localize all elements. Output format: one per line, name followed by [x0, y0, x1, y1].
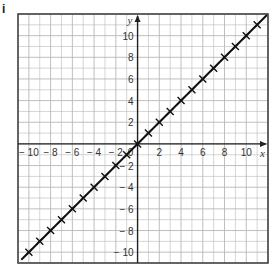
- x-axis-label: x: [259, 147, 265, 159]
- y-tick-label: 10: [122, 31, 134, 42]
- x-tick-label: − 4: [87, 147, 102, 158]
- y-tick-label: 8: [128, 52, 134, 63]
- y-axis-arrow-icon: [135, 15, 141, 22]
- y-tick-label: 4: [128, 96, 134, 107]
- x-tick-label: 8: [222, 147, 228, 158]
- x-tick-label: − 8: [44, 147, 59, 158]
- y-tick-label: − 10: [114, 247, 134, 258]
- x-tick-label: − 2: [109, 147, 124, 158]
- y-tick-label: 2: [128, 117, 134, 128]
- y-tick-label: − 8: [119, 226, 134, 237]
- x-tick-label: 6: [200, 147, 206, 158]
- y-tick-label: 6: [128, 74, 134, 85]
- x-tick-label: 2: [157, 147, 163, 158]
- y-tick-label: − 4: [119, 182, 134, 193]
- y-axis-label: y: [127, 14, 133, 26]
- y-tick-label: − 6: [119, 204, 134, 215]
- x-tick-label: 4: [178, 147, 184, 158]
- coordinate-grid-chart: xy− 10− 8− 6− 4− 20246810108642− 2− 4− 6…: [0, 0, 274, 273]
- x-tick-label: 10: [241, 147, 253, 158]
- x-tick-label: − 6: [65, 147, 80, 158]
- x-tick-label: − 10: [19, 147, 39, 158]
- y-tick-label: − 2: [119, 161, 134, 172]
